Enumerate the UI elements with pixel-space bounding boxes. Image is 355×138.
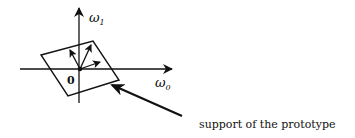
omega0-label: ω0 bbox=[155, 75, 171, 92]
pointer-arrow bbox=[112, 85, 182, 116]
annotation-label: support of the prototype bbox=[199, 118, 335, 131]
omega1-label: ω1 bbox=[89, 10, 105, 27]
origin-label: 0 bbox=[67, 74, 75, 87]
prototype-support-diagram: ω1 ω0 0 support of the prototype bbox=[0, 0, 355, 138]
